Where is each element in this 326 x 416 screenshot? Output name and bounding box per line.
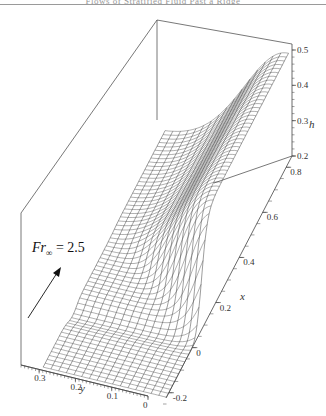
h-tick-label: 0.4 (297, 80, 309, 90)
y-tick-label: 0.3 (34, 373, 46, 383)
h-axis-label: h (309, 118, 315, 130)
y-tick-label: 0.1 (107, 391, 118, 401)
y-axis-label: y (79, 382, 85, 394)
h-tick-label: 0.3 (297, 116, 309, 126)
flow-arrow-icon (28, 267, 61, 318)
svg-text:Fr∞ = 2.5: Fr∞ = 2.5 (31, 240, 85, 258)
x-tick-label: 0.2 (220, 303, 231, 313)
y-axis: 00.10.20.3 y (21, 365, 148, 410)
surface-plot: 0.20.30.40.5 h -0.200.20.40.60.8 x 00.10… (0, 0, 326, 416)
h-axis: 0.20.30.40.5 h (292, 44, 315, 161)
x-tick-label: 0.6 (267, 212, 279, 222)
y-tick-label: 0 (143, 400, 148, 410)
x-tick-label: 0.4 (243, 257, 255, 267)
fr-label: Fr (31, 240, 47, 255)
x-tick-label: 0 (196, 348, 201, 358)
fr-value: = 2.5 (52, 240, 84, 255)
h-tick-label: 0.2 (297, 151, 308, 161)
plot-frame (21, 20, 292, 396)
surface-mesh (43, 53, 288, 397)
x-axis-label: x (239, 290, 245, 302)
x-tick-label: 0.8 (290, 167, 302, 177)
h-tick-label: 0.5 (297, 45, 309, 55)
x-tick-label: -0.2 (173, 393, 187, 403)
